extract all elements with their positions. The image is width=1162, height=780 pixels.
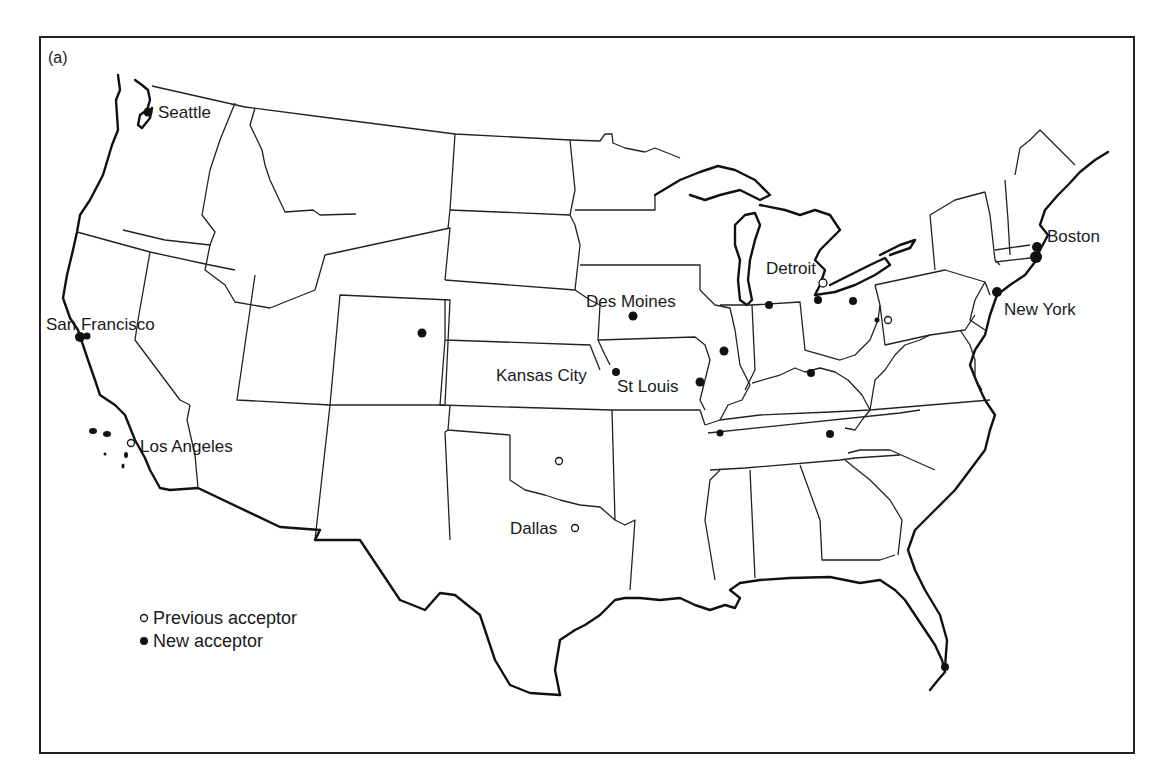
new-acceptor-marker bbox=[826, 430, 834, 438]
city-label-kansas-city: Kansas City bbox=[496, 366, 587, 385]
new-acceptor-marker bbox=[1032, 242, 1042, 252]
map-outline bbox=[63, 75, 1108, 695]
city-label-san-francisco: San Francisco bbox=[46, 315, 155, 334]
new-acceptor-marker bbox=[717, 430, 724, 437]
legend-label-new: New acceptor bbox=[153, 631, 263, 651]
new-acceptor-marker bbox=[612, 368, 620, 376]
open-circle-icon bbox=[141, 615, 148, 622]
new-acceptor-marker bbox=[720, 347, 729, 356]
city-seattle: Seattle bbox=[144, 103, 211, 122]
city-dallas: Dallas bbox=[510, 519, 579, 538]
city-label-seattle: Seattle bbox=[158, 103, 211, 122]
unlabeled-markers bbox=[418, 296, 950, 671]
city-new-york: New York bbox=[992, 287, 1076, 319]
city-label-new-york: New York bbox=[1004, 300, 1076, 319]
new-acceptor-marker bbox=[765, 301, 773, 309]
city-st-louis: St Louis bbox=[617, 377, 705, 396]
new-acceptor-marker bbox=[941, 663, 949, 671]
new-acceptor-marker bbox=[992, 287, 1002, 297]
legend-item-new: New acceptor bbox=[140, 631, 263, 651]
new-acceptor-marker bbox=[418, 329, 427, 338]
city-los-angeles: Los Angeles bbox=[128, 437, 233, 456]
previous-acceptor-marker bbox=[819, 279, 827, 287]
previous-acceptor-marker bbox=[556, 458, 563, 465]
new-acceptor-marker bbox=[849, 297, 857, 305]
city-kansas-city: Kansas City bbox=[496, 366, 620, 385]
channel-islands bbox=[89, 428, 128, 469]
previous-acceptor-marker bbox=[885, 317, 892, 324]
new-acceptor-marker bbox=[875, 318, 880, 323]
filled-circle-icon bbox=[140, 637, 148, 645]
city-label-los-angeles: Los Angeles bbox=[140, 437, 233, 456]
city-boston: Boston bbox=[1030, 227, 1100, 263]
city-san-francisco: San Francisco bbox=[46, 315, 155, 342]
new-acceptor-marker bbox=[814, 296, 822, 304]
city-label-st-louis: St Louis bbox=[617, 377, 678, 396]
us-map-figure: (a) bbox=[0, 0, 1162, 780]
new-acceptor-marker bbox=[144, 108, 153, 117]
legend-item-previous: Previous acceptor bbox=[141, 608, 298, 628]
new-acceptor-marker bbox=[807, 369, 815, 377]
panel-label: (a) bbox=[48, 49, 68, 66]
new-acceptor-marker bbox=[629, 312, 638, 321]
legend: Previous acceptor New acceptor bbox=[140, 608, 297, 651]
previous-acceptor-marker bbox=[128, 440, 135, 447]
new-acceptor-marker bbox=[696, 378, 705, 387]
city-label-des-moines: Des Moines bbox=[586, 292, 676, 311]
city-label-detroit: Detroit bbox=[766, 259, 816, 278]
city-label-boston: Boston bbox=[1047, 227, 1100, 246]
previous-acceptor-marker bbox=[572, 525, 579, 532]
city-label-dallas: Dallas bbox=[510, 519, 557, 538]
legend-label-previous: Previous acceptor bbox=[153, 608, 297, 628]
